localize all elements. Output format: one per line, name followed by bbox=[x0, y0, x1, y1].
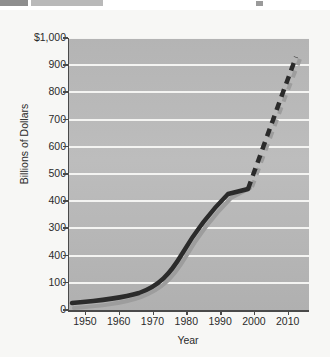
x-tick-label: 2010 bbox=[268, 315, 308, 327]
y-axis-labels: 0100400300400500600700800900$1,000 bbox=[0, 10, 66, 357]
y-tick-label: $1,000 bbox=[4, 32, 66, 43]
y-tick-mark bbox=[63, 309, 68, 311]
y-tick-mark bbox=[63, 227, 68, 229]
y-tick-mark bbox=[63, 200, 68, 202]
x-tick-mark bbox=[85, 310, 87, 315]
y-tick-mark bbox=[63, 91, 68, 93]
cropped-top-banner bbox=[0, 0, 330, 10]
series-projection-dark bbox=[248, 57, 296, 189]
y-tick-label: 600 bbox=[4, 141, 66, 152]
y-tick-label: 900 bbox=[4, 59, 66, 70]
y-tick-label: 0 bbox=[4, 304, 66, 315]
y-tick-mark bbox=[63, 255, 68, 257]
x-tick-mark bbox=[220, 310, 222, 315]
y-tick-mark bbox=[63, 146, 68, 148]
plot-area bbox=[68, 38, 309, 310]
x-tick-mark bbox=[288, 310, 290, 315]
y-tick-label: 100 bbox=[4, 277, 66, 288]
y-axis-title: Billions of Dollars bbox=[18, 74, 30, 214]
chart-figure: 0100400300400500600700800900$1,000 19501… bbox=[0, 10, 330, 357]
x-tick-mark bbox=[254, 310, 256, 315]
y-tick-mark bbox=[63, 64, 68, 66]
series-layer bbox=[69, 38, 309, 310]
banner-fragment-title bbox=[31, 0, 103, 6]
x-tick-mark bbox=[186, 310, 188, 315]
series-projection-light bbox=[252, 59, 300, 187]
banner-fragment-left bbox=[0, 0, 28, 6]
y-tick-label: 500 bbox=[4, 168, 66, 179]
y-tick-label: 400 bbox=[4, 195, 66, 206]
x-axis-line bbox=[68, 310, 309, 312]
y-tick-label: 700 bbox=[4, 114, 66, 125]
banner-fragment-right bbox=[256, 1, 263, 6]
y-tick-label: 800 bbox=[4, 86, 66, 97]
y-tick-mark bbox=[63, 282, 68, 284]
y-tick-mark bbox=[63, 119, 68, 121]
series-historical-shadow bbox=[74, 188, 250, 308]
y-tick-label: 300 bbox=[4, 222, 66, 233]
y-tick-mark bbox=[63, 37, 68, 39]
y-tick-mark bbox=[63, 173, 68, 175]
x-tick-mark bbox=[119, 310, 121, 315]
x-axis-title: Year bbox=[68, 334, 308, 346]
x-tick-mark bbox=[153, 310, 155, 315]
y-tick-label: 400 bbox=[4, 250, 66, 261]
